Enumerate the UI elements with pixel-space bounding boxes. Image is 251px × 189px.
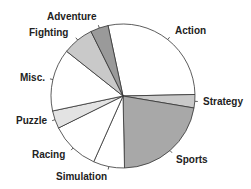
tick-mark — [76, 38, 78, 40]
label-simulation: Simulation — [56, 171, 107, 182]
tick-mark — [98, 25, 99, 28]
label-action: Action — [175, 25, 206, 36]
tick-mark — [50, 79, 53, 80]
tick-mark — [168, 37, 170, 39]
tick-mark — [52, 120, 55, 121]
label-sports: Sports — [176, 154, 208, 165]
tick-mark — [108, 167, 109, 170]
label-adventure: Adventure — [47, 11, 97, 22]
label-fighting: Fighting — [29, 27, 68, 38]
label-puzzle: Puzzle — [16, 115, 48, 126]
tick-mark — [170, 151, 172, 153]
pie-slices — [51, 24, 195, 168]
tick-mark — [71, 148, 73, 150]
label-strategy: Strategy — [203, 96, 243, 107]
label-racing: Racing — [32, 149, 65, 160]
pie-chart: Action Strategy Sports Simulation Racing… — [0, 0, 251, 189]
label-misc: Misc. — [20, 72, 45, 83]
